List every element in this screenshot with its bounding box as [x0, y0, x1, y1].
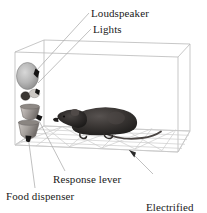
loudspeaker-diaphragm	[17, 63, 39, 90]
label-electrified-grid: Electrified grid	[146, 176, 194, 213]
label-response-lever: Response lever	[53, 173, 121, 186]
chamber-edge-top-right	[178, 44, 190, 57]
label-lights: Lights	[93, 23, 122, 36]
label-loudspeaker: Loudspeaker	[91, 7, 149, 20]
lever-rim	[20, 104, 39, 109]
figure-canvas: Loudspeaker Lights Response lever Food d…	[0, 0, 207, 213]
leader-food-dispenser	[28, 136, 35, 188]
rat-ear	[71, 109, 79, 116]
label-electrified-grid-line1: Electrified	[146, 201, 194, 213]
rat-haunch	[107, 112, 125, 125]
chamber-edge-top-left	[15, 40, 44, 52]
label-food-dispenser: Food dispenser	[6, 190, 74, 203]
dispenser-chute	[26, 136, 32, 143]
rat-snout	[53, 118, 59, 122]
dispenser-rim	[19, 120, 40, 125]
food-dispenser-cup	[19, 120, 40, 142]
loudspeaker-cone	[17, 63, 40, 90]
leader-lights	[38, 29, 91, 83]
response-lever	[20, 104, 42, 121]
signal-lights	[21, 89, 40, 101]
rat	[53, 107, 161, 139]
leader-lines	[28, 13, 153, 188]
rat-eye	[63, 115, 65, 117]
light-lamp-dark	[21, 92, 30, 100]
